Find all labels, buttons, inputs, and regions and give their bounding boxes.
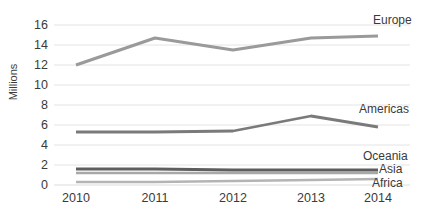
series-label-africa: Africa bbox=[372, 177, 403, 189]
series-label-europe: Europe bbox=[373, 14, 412, 26]
x-axis-tick-2010: 2010 bbox=[46, 192, 106, 205]
series-line-africa bbox=[76, 179, 378, 182]
series-lines bbox=[76, 36, 378, 182]
x-axis-tick-2013: 2013 bbox=[281, 192, 341, 205]
series-label-oceania: Oceania bbox=[363, 150, 408, 162]
line-chart: Millions 16 14 12 10 8 6 4 2 0 Europe Am… bbox=[0, 0, 422, 219]
series-label-americas: Americas bbox=[359, 103, 409, 115]
x-axis-tick-2011: 2011 bbox=[125, 192, 185, 205]
x-axis-tick-2014: 2014 bbox=[348, 192, 408, 205]
series-line-europe bbox=[76, 36, 378, 65]
x-axis-tick-2012: 2012 bbox=[203, 192, 263, 205]
series-line-asia bbox=[76, 169, 378, 170]
series-line-americas bbox=[76, 116, 378, 132]
series-label-asia: Asia bbox=[379, 163, 402, 175]
